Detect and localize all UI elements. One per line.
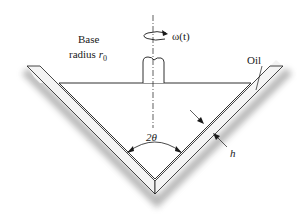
right-wall: [155, 66, 283, 194]
diagram-graphics: [0, 0, 297, 214]
gap-label: h: [230, 148, 236, 159]
rotation-arrow-icon: [144, 30, 168, 40]
left-wall: [27, 66, 155, 194]
conical-bearing-diagram: Base radius r0 ω(t) Oil 2θ h: [0, 0, 297, 214]
angle-arc: [127, 142, 182, 153]
omega-label: ω(t): [172, 31, 190, 42]
base-radius-sub: 0: [103, 54, 107, 63]
oil-label: Oil: [247, 55, 261, 66]
base-label-line1: Base: [78, 34, 99, 45]
base-radius-text: radius: [69, 48, 99, 60]
base-label-line2: radius r0: [69, 49, 107, 63]
angle-label: 2θ: [146, 132, 157, 143]
shaft: [143, 57, 164, 83]
